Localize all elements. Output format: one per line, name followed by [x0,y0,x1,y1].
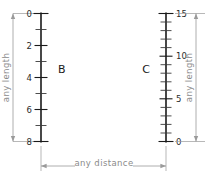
scale-b-tick-label-8: 8 [27,137,32,147]
distance-arrow-left-icon [41,164,47,168]
diagram-canvas: any length 0 2 4 6 8 B [0,0,218,179]
scale-c-group: 15 10 5 0 C [142,9,187,147]
left-dim-arrow-top-icon [11,14,15,20]
right-dim-arrow-top-icon [194,14,198,20]
distance-dimension: any distance [41,146,166,171]
left-dim-arrow-bottom-icon [11,136,15,142]
scale-b-tick-label-2: 2 [27,41,32,51]
scale-b-tick-label-0: 0 [27,9,32,19]
distance-label: any distance [74,158,133,168]
scale-c-tick-label-5: 5 [176,94,181,104]
scale-b-name: B [58,63,66,76]
left-length-label: any length [1,53,11,102]
scale-b-tick-label-4: 4 [27,73,32,83]
scale-b-group: 0 2 4 6 8 B [27,9,66,147]
right-dim-arrow-bottom-icon [194,136,198,142]
right-length-dimension: any length [175,14,205,142]
scale-c-name: C [142,63,150,76]
scale-b-tick-label-6: 6 [27,105,32,115]
right-length-label: any length [184,53,194,102]
nomogram-diagram: any length 0 2 4 6 8 B [0,0,218,179]
distance-arrow-right-icon [160,164,166,168]
